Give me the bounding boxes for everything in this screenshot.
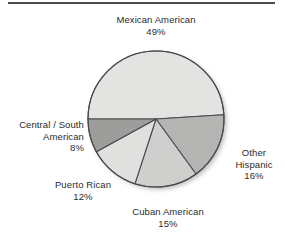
slice-label-central-south-american-value: 8% xyxy=(2,142,84,154)
pie-slice xyxy=(88,51,224,119)
pie-chart-figure: Mexican American 49% Other Hispanic 16% … xyxy=(0,0,285,240)
slice-label-cuban-american-value: 15% xyxy=(116,218,220,230)
slice-label-cuban-american-name: Cuban American xyxy=(116,206,220,218)
slice-label-other-hispanic-name-line2: Hispanic xyxy=(228,159,280,171)
slice-label-mexican-american-value: 49% xyxy=(104,26,208,38)
slice-label-central-south-american-name-line1: Central / South xyxy=(2,119,84,131)
slice-label-puerto-rican-name: Puerto Rican xyxy=(38,179,128,191)
pie-slices-group xyxy=(88,51,224,187)
slice-label-cuban-american: Cuban American 15% xyxy=(116,206,220,229)
slice-label-central-south-american-name-line2: American xyxy=(2,131,84,143)
slice-label-mexican-american: Mexican American 49% xyxy=(104,14,208,37)
slice-label-mexican-american-name: Mexican American xyxy=(104,14,208,26)
slice-label-other-hispanic: Other Hispanic 16% xyxy=(228,147,280,182)
slice-label-central-south-american: Central / South American 8% xyxy=(2,119,84,154)
slice-label-puerto-rican-value: 12% xyxy=(38,191,128,203)
slice-label-puerto-rican: Puerto Rican 12% xyxy=(38,179,128,202)
slice-label-other-hispanic-name-line1: Other xyxy=(228,147,280,159)
slice-label-other-hispanic-value: 16% xyxy=(228,170,280,182)
